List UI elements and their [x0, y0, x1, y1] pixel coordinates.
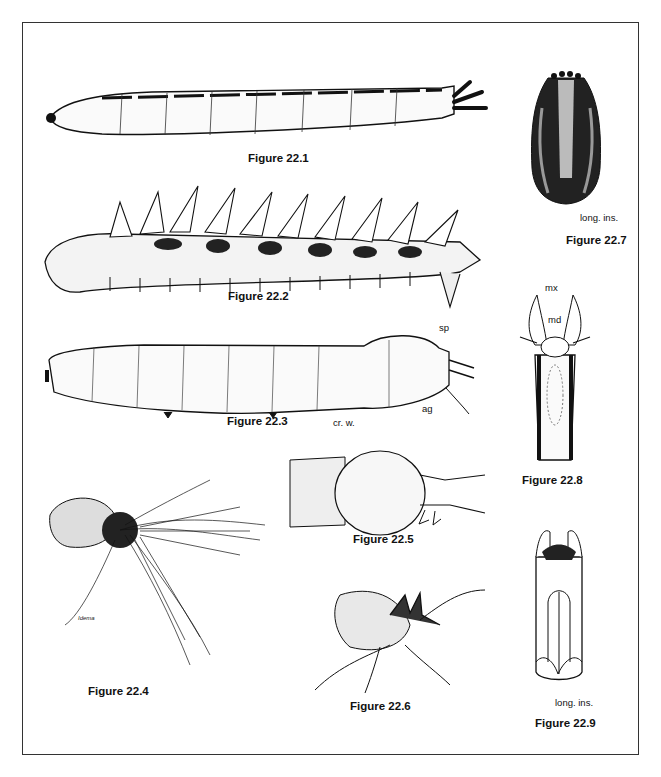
figure-22-1-caption: Figure 22.1 [248, 152, 309, 164]
figure-22-9-caption: Figure 22.9 [535, 717, 596, 729]
figure-22-5-drawing [285, 445, 490, 540]
figure-22-4-drawing [40, 475, 270, 675]
figure-22-6-caption: Figure 22.6 [350, 700, 411, 712]
label-long-ins-22-9: long. ins. [555, 697, 593, 708]
figure-22-3-drawing [44, 330, 484, 420]
label-ag: ag [422, 403, 433, 414]
label-md: md [548, 314, 561, 325]
illustrator-signature: Idema [78, 615, 95, 621]
figure-22-7-caption: Figure 22.7 [566, 234, 627, 246]
figure-22-8-caption: Figure 22.8 [522, 474, 583, 486]
figure-22-4-caption: Figure 22.4 [88, 685, 149, 697]
label-long-ins-22-7: long. ins. [580, 212, 618, 223]
figure-22-6-drawing [310, 585, 490, 695]
figure-22-7-drawing [528, 68, 604, 208]
figure-22-1-drawing [42, 78, 492, 140]
label-mx: mx [545, 282, 558, 293]
figure-22-3-caption: Figure 22.3 [227, 415, 288, 427]
label-cr-w: cr. w. [333, 417, 355, 428]
figure-22-5-caption: Figure 22.5 [353, 533, 414, 545]
label-sp: sp [439, 322, 449, 333]
figure-22-2-caption: Figure 22.2 [228, 290, 289, 302]
figure-22-9-drawing [532, 522, 586, 687]
